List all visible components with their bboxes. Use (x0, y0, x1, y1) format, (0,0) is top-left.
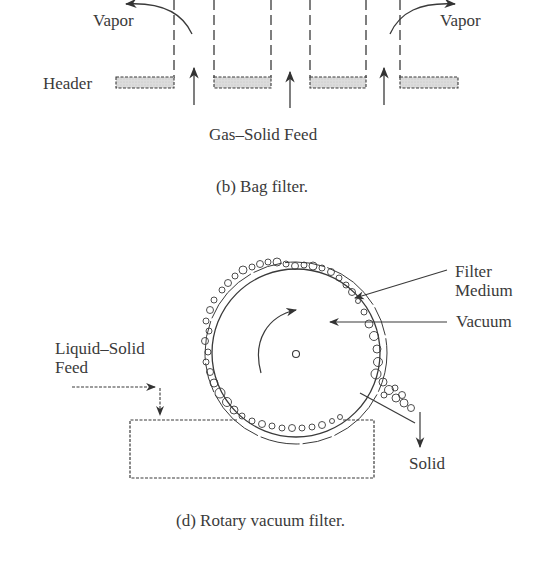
filter-bag-2 (214, 0, 271, 78)
header-plate-4 (400, 77, 458, 88)
filter-medium-label: Filter Medium (455, 262, 513, 300)
filter-medium-label-line1: Filter (455, 262, 492, 281)
rotation-arrow (258, 310, 296, 373)
vapor-label-left: Vapor (93, 12, 134, 29)
feed-label-line1: Liquid–Solid (55, 339, 145, 358)
filter-medium-label-line2: Medium (455, 281, 513, 300)
bag-filter-caption: (b) Bag filter. (216, 178, 308, 195)
gas-solid-feed-label: Gas–Solid Feed (209, 126, 317, 143)
header-plate-1 (116, 77, 174, 88)
liquid-solid-feed-label: Liquid–Solid Feed (55, 339, 145, 377)
filter-medium-ring (205, 262, 387, 444)
header-plate-2 (214, 77, 271, 88)
header-plate-3 (310, 77, 366, 88)
rotary-filter-caption: (d) Rotary vacuum filter. (176, 512, 345, 529)
filter-bag-3 (310, 0, 366, 78)
bag-filter-diagram (116, 0, 458, 108)
vapor-arrow-left (126, 4, 192, 34)
solid-label: Solid (409, 455, 445, 472)
vacuum-label: Vacuum (456, 313, 512, 330)
header-label: Header (43, 75, 92, 92)
vapor-label-right: Vapor (440, 12, 481, 29)
drum-axle (293, 351, 300, 358)
trough (130, 420, 374, 478)
filter-medium-leader (355, 270, 447, 298)
feed-label-line2: Feed (55, 358, 88, 377)
